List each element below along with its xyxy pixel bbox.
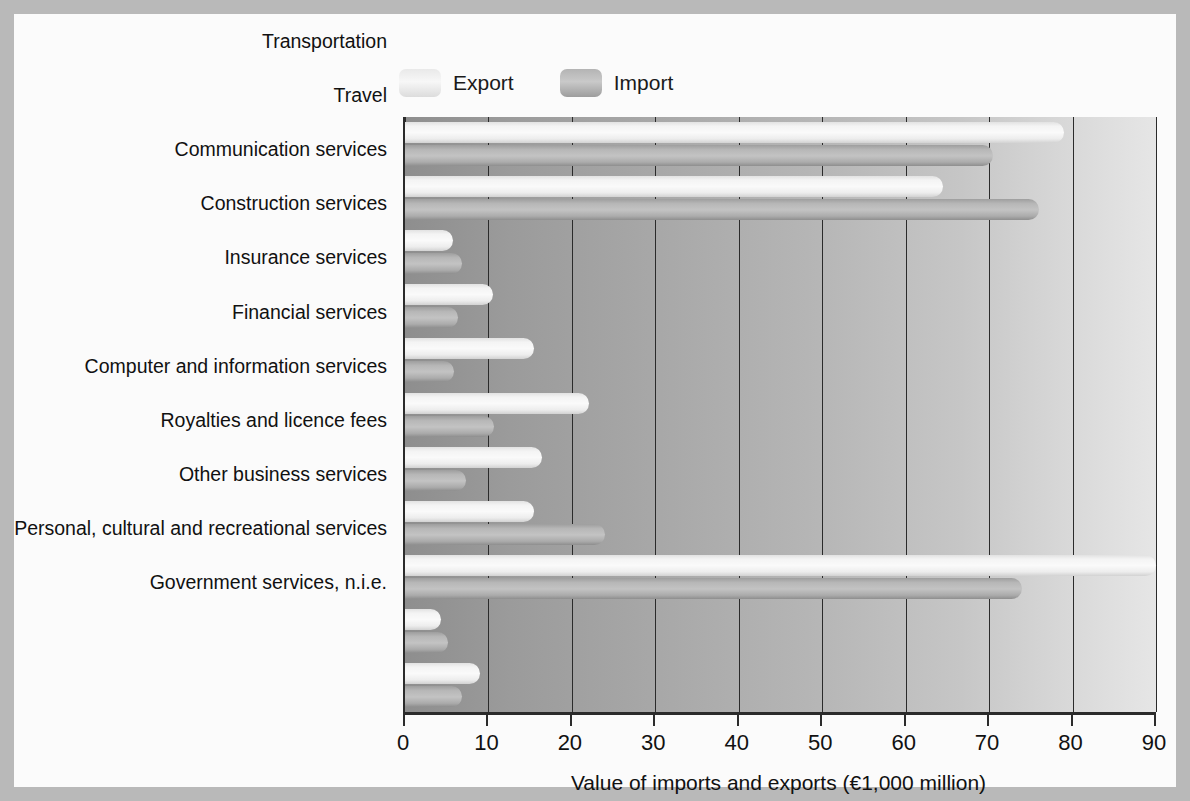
bar-import-1: [405, 199, 1039, 220]
tick-top-90: [1156, 117, 1157, 125]
legend-label-export: Export: [453, 71, 514, 95]
category-label-1: Travel: [334, 84, 387, 107]
x-tick-label-20: 20: [558, 730, 582, 756]
chart-legend: Export Import: [399, 64, 673, 102]
legend-label-import: Import: [614, 71, 674, 95]
gridline-90: [1156, 117, 1157, 712]
x-tick-label-50: 50: [808, 730, 832, 756]
legend-swatch-export-icon: [399, 69, 441, 97]
x-tick-label-90: 90: [1142, 730, 1166, 756]
x-axis-title: Value of imports and exports (€1,000 mil…: [403, 771, 1154, 795]
tick-mark-0: [403, 715, 405, 726]
bar-export-2: [405, 230, 453, 251]
tick-mark-80: [1071, 715, 1073, 726]
legend-item-import: Import: [560, 69, 674, 97]
x-tick-label-40: 40: [725, 730, 749, 756]
bar-export-7: [405, 501, 534, 522]
category-label-3: Construction services: [201, 192, 387, 215]
bar-import-2: [405, 253, 462, 274]
x-tick-label-10: 10: [474, 730, 498, 756]
x-tick-label-30: 30: [641, 730, 665, 756]
plot-area: [403, 117, 1156, 715]
bar-import-5: [405, 416, 494, 437]
bar-import-6: [405, 470, 466, 491]
legend-item-export: Export: [399, 69, 514, 97]
bar-export-4: [405, 338, 534, 359]
category-label-8: Other business services: [179, 462, 387, 485]
category-label-5: Financial services: [232, 300, 387, 323]
bar-import-0: [405, 145, 993, 166]
bar-import-7: [405, 524, 605, 545]
x-tick-label-0: 0: [397, 730, 409, 756]
tick-mark-50: [820, 715, 822, 726]
category-axis: TransportationTravelCommunication servic…: [14, 14, 395, 609]
bar-export-1: [405, 176, 943, 197]
tick-mark-10: [486, 715, 488, 726]
tick-mark-70: [987, 715, 989, 726]
tick-mark-40: [737, 715, 739, 726]
bar-export-10: [405, 663, 480, 684]
category-label-10: Government services, n.i.e.: [150, 570, 387, 593]
category-label-4: Insurance services: [224, 246, 387, 269]
category-label-6: Computer and information services: [85, 354, 387, 377]
bar-export-0: [405, 122, 1064, 143]
bar-import-8: [405, 578, 1022, 599]
chart-page: Export Import TransportationTravelCommun…: [14, 14, 1176, 787]
tick-mark-30: [653, 715, 655, 726]
x-tick-label-80: 80: [1058, 730, 1082, 756]
tick-mark-60: [904, 715, 906, 726]
bar-import-3: [405, 307, 458, 328]
category-label-9: Personal, cultural and recreational serv…: [14, 516, 387, 539]
x-tick-label-70: 70: [975, 730, 999, 756]
bar-export-8: [405, 555, 1156, 576]
category-label-2: Communication services: [175, 138, 387, 161]
tick-mark-90: [1154, 715, 1156, 726]
bar-import-9: [405, 632, 448, 653]
category-label-0: Transportation: [262, 30, 387, 53]
category-label-7: Royalties and licence fees: [160, 408, 387, 431]
bar-export-3: [405, 284, 493, 305]
legend-swatch-import-icon: [560, 69, 602, 97]
bar-import-4: [405, 361, 454, 382]
gridline-80: [1073, 117, 1074, 712]
tick-top-80: [1073, 117, 1074, 125]
bar-export-6: [405, 447, 542, 468]
tick-mark-20: [570, 715, 572, 726]
bar-import-10: [405, 686, 462, 707]
x-tick-label-60: 60: [891, 730, 915, 756]
bar-export-9: [405, 609, 441, 630]
bar-export-5: [405, 393, 589, 414]
